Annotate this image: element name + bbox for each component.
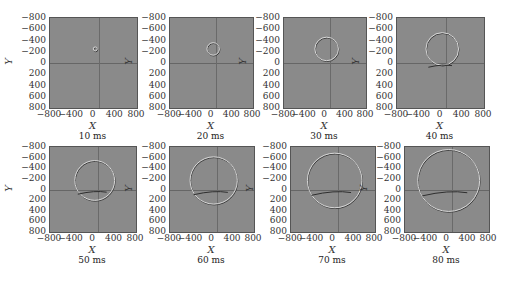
wavefield-plot xyxy=(404,146,490,233)
y-tick-label: 600 xyxy=(371,216,401,225)
y-tick-label: 400 xyxy=(257,206,287,215)
y-tick-label: 400 xyxy=(16,81,46,90)
y-tick-label: −400 xyxy=(136,163,166,172)
y-tick-label: −600 xyxy=(371,153,401,162)
y-axis-label: Y xyxy=(123,185,134,192)
x-axis-label: X xyxy=(82,244,102,255)
y-tick-label: 400 xyxy=(136,81,166,90)
y-axis-label: Y xyxy=(358,185,369,192)
y-tick-label: 200 xyxy=(136,69,166,78)
y-tick-label: 0 xyxy=(136,185,166,194)
y-tick-label: 400 xyxy=(136,206,166,215)
time-caption: 80 ms xyxy=(421,255,471,265)
y-tick-label: −200 xyxy=(250,47,280,56)
y-tick-label: −200 xyxy=(136,174,166,183)
x-axis-label: X xyxy=(83,120,103,131)
time-caption: 20 ms xyxy=(186,131,236,141)
wavefield-plot xyxy=(169,146,255,233)
y-tick-label: −600 xyxy=(250,24,280,33)
wavefield-plot xyxy=(396,17,485,109)
y-tick-label: 200 xyxy=(250,69,280,78)
y-tick-label: −600 xyxy=(257,153,287,162)
y-tick-label: 200 xyxy=(363,69,393,78)
time-caption: 70 ms xyxy=(307,255,357,265)
y-axis-label: Y xyxy=(123,58,134,65)
y-tick-label: 0 xyxy=(250,58,280,67)
x-tick-label: 800 xyxy=(468,110,498,119)
y-tick-label: 200 xyxy=(136,195,166,204)
y-tick-label: 0 xyxy=(136,58,166,67)
y-tick-label: −600 xyxy=(363,24,393,33)
y-tick-label: 400 xyxy=(250,81,280,90)
y-tick-label: −600 xyxy=(136,24,166,33)
y-tick-label: −200 xyxy=(16,174,46,183)
time-caption: 10 ms xyxy=(68,131,118,141)
y-tick-label: 600 xyxy=(136,216,166,225)
y-tick-label: −600 xyxy=(136,153,166,162)
y-tick-label: 400 xyxy=(16,206,46,215)
wavefront xyxy=(405,147,489,232)
y-axis-label: Y xyxy=(3,58,14,65)
y-tick-label: −800 xyxy=(16,13,46,22)
y-tick-label: −600 xyxy=(16,153,46,162)
y-tick-label: 600 xyxy=(363,92,393,101)
y-tick-label: −200 xyxy=(136,47,166,56)
y-tick-label: 0 xyxy=(363,58,393,67)
x-tick-label: 800 xyxy=(473,234,503,243)
wavefront xyxy=(170,147,254,232)
x-axis-label: X xyxy=(314,120,334,131)
y-tick-label: −200 xyxy=(257,174,287,183)
y-tick-label: −400 xyxy=(16,163,46,172)
y-tick-label: −400 xyxy=(371,163,401,172)
y-tick-label: 200 xyxy=(16,195,46,204)
time-caption: 60 ms xyxy=(186,255,236,265)
y-tick-label: −200 xyxy=(363,47,393,56)
time-caption: 40 ms xyxy=(415,131,465,141)
time-caption: 50 ms xyxy=(67,255,117,265)
y-tick-label: 200 xyxy=(371,195,401,204)
y-tick-label: −400 xyxy=(257,163,287,172)
y-tick-label: −800 xyxy=(16,142,46,151)
y-axis-label: Y xyxy=(3,185,14,192)
y-tick-label: −400 xyxy=(250,36,280,45)
y-tick-label: 0 xyxy=(16,185,46,194)
y-tick-label: −800 xyxy=(363,13,393,22)
y-tick-label: −800 xyxy=(136,142,166,151)
y-tick-label: −200 xyxy=(371,174,401,183)
y-tick-label: 600 xyxy=(250,92,280,101)
y-axis-label: Y xyxy=(350,58,361,65)
x-axis-label: X xyxy=(201,244,221,255)
time-caption: 30 ms xyxy=(299,131,349,141)
y-tick-label: 0 xyxy=(257,185,287,194)
y-tick-label: −400 xyxy=(363,36,393,45)
wavefront xyxy=(397,18,484,108)
y-tick-label: 200 xyxy=(257,195,287,204)
y-tick-label: 0 xyxy=(371,185,401,194)
y-axis-label: Y xyxy=(237,58,248,65)
y-tick-label: −600 xyxy=(16,24,46,33)
y-tick-label: 400 xyxy=(363,81,393,90)
x-axis-label: X xyxy=(201,120,221,131)
x-axis-label: X xyxy=(322,244,342,255)
y-tick-label: 400 xyxy=(371,206,401,215)
y-tick-label: −400 xyxy=(16,36,46,45)
y-tick-label: 600 xyxy=(16,92,46,101)
y-tick-label: −800 xyxy=(257,142,287,151)
x-axis-label: X xyxy=(430,120,450,131)
y-tick-label: 0 xyxy=(16,58,46,67)
y-tick-label: −800 xyxy=(136,13,166,22)
y-tick-label: −400 xyxy=(136,36,166,45)
y-tick-label: −800 xyxy=(371,142,401,151)
y-tick-label: 600 xyxy=(16,216,46,225)
x-axis-label: X xyxy=(436,244,456,255)
y-tick-label: 600 xyxy=(136,92,166,101)
y-tick-label: 200 xyxy=(16,69,46,78)
y-tick-label: −200 xyxy=(16,47,46,56)
y-tick-label: 600 xyxy=(257,216,287,225)
y-tick-label: −800 xyxy=(250,13,280,22)
y-axis-label: Y xyxy=(244,185,255,192)
